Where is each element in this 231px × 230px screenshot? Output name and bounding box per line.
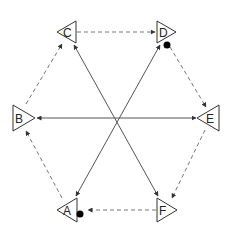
edge-a-to-b [26, 131, 62, 198]
edge-b-to-c [26, 44, 62, 104]
marker-dot-d [164, 42, 171, 49]
node-e-label: E [206, 112, 214, 126]
edge-c-f [74, 45, 158, 196]
node-e[interactable]: E [197, 105, 219, 131]
node-f-label: F [159, 204, 166, 218]
edge-d-a [76, 45, 160, 196]
node-a-label: A [63, 204, 71, 218]
node-c[interactable]: C [57, 21, 76, 43]
graph-canvas: C D B E A F [0, 0, 231, 230]
node-c-label: C [63, 26, 72, 40]
node-b[interactable]: B [13, 105, 35, 131]
node-f[interactable]: F [157, 198, 177, 222]
node-a[interactable]: A [57, 198, 77, 222]
node-b-label: B [15, 112, 23, 126]
edge-e-to-f [172, 130, 205, 198]
node-d-label: D [159, 26, 168, 40]
edge-d-to-e [170, 47, 206, 107]
node-d[interactable]: D [157, 21, 176, 43]
marker-dot-a [77, 211, 84, 218]
